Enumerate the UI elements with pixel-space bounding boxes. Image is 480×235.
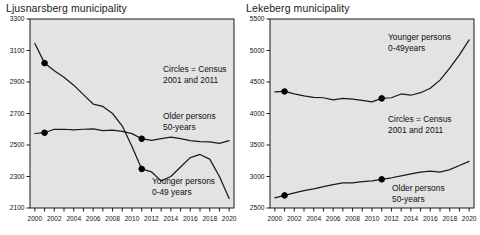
x-tick-label: 2002 <box>47 215 62 222</box>
x-tick-label: 2016 <box>423 215 438 222</box>
x-tick-label: 2012 <box>384 215 399 222</box>
chart-panel-lekeberg: Lekeberg municipality 250030003500400045… <box>240 0 480 235</box>
census-marker <box>379 96 385 102</box>
annotation-line: Younger persons <box>152 176 215 186</box>
y-tick-label: 3300 <box>10 15 25 22</box>
annotation-line: Older persons <box>392 183 445 193</box>
annotation-census-note: Circles = Census2001 and 2011 <box>163 64 227 85</box>
chart-panel-ljusnarsberg: Ljusnarsberg municipality 21002300250027… <box>0 0 240 235</box>
annotation-line: Younger persons <box>388 32 451 42</box>
census-marker <box>139 166 145 172</box>
x-tick-label: 2010 <box>125 215 140 222</box>
census-marker <box>42 60 48 66</box>
x-tick-label: 2012 <box>144 215 159 222</box>
x-tick-label: 2014 <box>404 215 419 222</box>
census-marker <box>282 193 288 199</box>
y-tick-label: 2300 <box>10 173 25 180</box>
annotation-line: Circles = Census <box>388 114 452 124</box>
x-tick-label: 2008 <box>345 215 360 222</box>
x-tick-label: 2020 <box>222 215 237 222</box>
annotation-line: 50-years <box>163 122 196 132</box>
x-tick-label: 2020 <box>462 215 477 222</box>
census-marker <box>42 130 48 136</box>
census-marker <box>379 177 385 183</box>
y-tick-label: 5000 <box>250 47 265 54</box>
x-tick-label: 2006 <box>86 215 101 222</box>
y-tick-label: 2100 <box>10 204 25 211</box>
chart-plot-right: 2500300035004000450050005500200020022004… <box>240 0 480 235</box>
chart-plot-left: 2100230025002700290031003300200020022004… <box>0 0 240 235</box>
x-tick-label: 2004 <box>306 215 321 222</box>
x-tick-label: 2018 <box>442 215 457 222</box>
figure-root: Ljusnarsberg municipality 21002300250027… <box>0 0 480 235</box>
annotation-line: 2001 and 2011 <box>163 75 219 85</box>
y-tick-label: 3000 <box>250 173 265 180</box>
y-tick-label: 4000 <box>250 110 265 117</box>
x-tick-label: 2004 <box>66 215 81 222</box>
annotation-line: 0-49 years <box>152 187 192 197</box>
annotation-line: 0-49years <box>388 43 425 53</box>
annotation-line: Circles = Census <box>163 64 227 74</box>
y-tick-label: 3100 <box>10 47 25 54</box>
annotation-line: 50-years <box>392 194 425 204</box>
x-tick-label: 2000 <box>268 215 283 222</box>
x-tick-label: 2006 <box>326 215 341 222</box>
y-tick-label: 2700 <box>10 110 25 117</box>
x-tick-label: 2010 <box>365 215 380 222</box>
y-tick-label: 3500 <box>250 141 265 148</box>
y-tick-label: 2500 <box>10 141 25 148</box>
y-tick-label: 2900 <box>10 78 25 85</box>
annotation-line: 2001 and 2011 <box>388 125 444 135</box>
annotation-line: Older persons <box>163 111 216 121</box>
x-tick-label: 2016 <box>183 215 198 222</box>
x-tick-label: 2000 <box>28 215 43 222</box>
y-tick-label: 2500 <box>250 204 265 211</box>
y-tick-label: 4500 <box>250 78 265 85</box>
y-tick-label: 5500 <box>250 15 265 22</box>
census-marker <box>139 136 145 142</box>
annotation-census-note: Circles = Census2001 and 2011 <box>388 114 452 135</box>
x-tick-label: 2002 <box>287 215 302 222</box>
x-tick-label: 2014 <box>164 215 179 222</box>
x-tick-label: 2008 <box>105 215 120 222</box>
x-tick-label: 2018 <box>202 215 217 222</box>
census-marker <box>282 89 288 95</box>
